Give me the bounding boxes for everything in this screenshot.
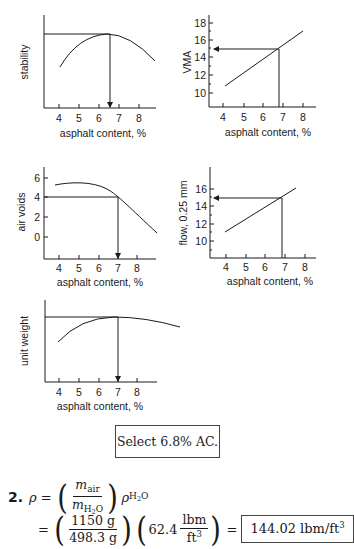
chart-flow bbox=[210, 167, 316, 258]
x-tick-label: 6 bbox=[262, 261, 268, 273]
x-tick-label: 6 bbox=[96, 112, 102, 124]
y-axis-label: unit weight bbox=[18, 316, 30, 366]
y-axis-label: VMA bbox=[181, 51, 193, 74]
selection-text: Select 6.8% AC. bbox=[117, 434, 218, 449]
y-ticks bbox=[210, 189, 214, 250]
x-tick-label: 7 bbox=[115, 262, 121, 274]
flow-line bbox=[225, 188, 296, 232]
selection-box: Select 6.8% AC. bbox=[115, 425, 220, 458]
y-tick-label: 0 bbox=[34, 231, 40, 243]
right-paren: ) bbox=[211, 512, 222, 546]
x-ticks bbox=[226, 254, 305, 258]
y-axis-label: air voids bbox=[15, 192, 27, 231]
x-axis-label: asphalt content, % bbox=[225, 126, 311, 138]
x-tick-label: 7 bbox=[282, 261, 288, 273]
x-tick-label: 7 bbox=[280, 111, 286, 123]
x-tick-label: 5 bbox=[241, 111, 247, 123]
y-ticks bbox=[209, 23, 213, 93]
y-tick-label: 2 bbox=[34, 211, 40, 223]
y-tick-label: 10 bbox=[195, 235, 207, 247]
x-tick-label: 4 bbox=[223, 261, 229, 273]
y-axis-label: flow, 0.25 mm bbox=[177, 180, 189, 245]
x-tick-label: 6 bbox=[96, 262, 102, 274]
y-tick-label: 14 bbox=[194, 51, 206, 63]
right-paren: ) bbox=[121, 512, 132, 546]
y-tick-label: 18 bbox=[194, 17, 206, 29]
y-tick-label: 12 bbox=[194, 69, 206, 81]
y-tick-label: 10 bbox=[194, 87, 206, 99]
x-tick-label: 7 bbox=[116, 112, 122, 124]
water-density-value: 62.4 bbox=[148, 522, 177, 537]
equals-sign: = bbox=[227, 522, 238, 537]
equals-sign: = bbox=[38, 522, 49, 537]
x-tick-label: 4 bbox=[56, 112, 62, 124]
y-tick-label: 16 bbox=[195, 183, 207, 195]
subscript-air: air bbox=[87, 484, 100, 494]
chart-air-voids bbox=[44, 167, 157, 259]
x-tick-label: 8 bbox=[134, 262, 140, 274]
denominator-mass: 498.3 g bbox=[67, 530, 119, 545]
y-axis-label: stability bbox=[18, 44, 30, 80]
unit-weight-curve bbox=[58, 317, 180, 342]
x-tick-label: 6 bbox=[96, 386, 102, 398]
y-tick-label: 14 bbox=[195, 200, 207, 212]
x-ticks bbox=[59, 378, 137, 382]
x-tick-label: 4 bbox=[220, 111, 226, 123]
equals-sign: = bbox=[41, 490, 52, 505]
mass-values-fraction: 1150 g 498.3 g bbox=[67, 514, 119, 545]
numerator-mass: 1150 g bbox=[69, 514, 117, 530]
y-tick-label: 12 bbox=[195, 218, 207, 230]
x-tick-label: 5 bbox=[76, 112, 82, 124]
m-symbol: m bbox=[75, 477, 87, 492]
right-paren: ) bbox=[107, 480, 118, 514]
chart-vma bbox=[209, 15, 316, 107]
x-axis-label: asphalt content, % bbox=[57, 400, 143, 412]
x-ticks bbox=[59, 255, 137, 259]
air-voids-curve bbox=[55, 183, 157, 233]
problem-number: 2. bbox=[8, 489, 23, 505]
x-ticks bbox=[223, 103, 303, 107]
x-tick-label: 6 bbox=[260, 111, 266, 123]
unit-exponent: 3 bbox=[196, 529, 201, 539]
y-tick-label: 4 bbox=[34, 191, 40, 203]
x-ticks bbox=[59, 104, 139, 108]
x-tick-label: 8 bbox=[134, 386, 140, 398]
x-axis-label: asphalt content, % bbox=[227, 275, 313, 287]
units-fraction: lbm ft3 bbox=[180, 513, 208, 545]
rho-symbol: ρ bbox=[29, 490, 37, 505]
left-paren: ( bbox=[54, 512, 65, 546]
chart-unit-weight bbox=[45, 300, 180, 382]
subscript-o: O bbox=[141, 491, 148, 501]
chart-stability bbox=[44, 15, 156, 108]
stability-curve bbox=[60, 34, 155, 67]
equation-line-2: = ( 1150 g 498.3 g ) ( 62.4 lbm ft3 ) = … bbox=[38, 512, 354, 546]
y-tick-label: 16 bbox=[194, 34, 206, 46]
unit-lbm: lbm bbox=[180, 513, 208, 529]
y-tick-label: 6 bbox=[34, 172, 40, 184]
figures: stability 4 5 6 7 8 asphalt content, % V… bbox=[0, 0, 334, 420]
left-paren: ( bbox=[137, 512, 148, 546]
m-symbol: m bbox=[72, 497, 84, 512]
x-tick-label: 5 bbox=[76, 386, 82, 398]
x-tick-label: 7 bbox=[115, 386, 121, 398]
x-tick-label: 4 bbox=[56, 262, 62, 274]
result-box: 144.02 lbm/ft3 bbox=[241, 515, 353, 543]
x-tick-label: 5 bbox=[243, 261, 249, 273]
vma-line bbox=[225, 31, 303, 86]
x-axis-label: asphalt content, % bbox=[60, 127, 146, 139]
y-ticks bbox=[44, 178, 48, 237]
x-axis-label: asphalt content, % bbox=[57, 276, 143, 288]
x-tick-label: 8 bbox=[302, 261, 308, 273]
mass-ratio-fraction: mair mH2O bbox=[70, 478, 105, 516]
rho-water-symbol: ρ bbox=[121, 490, 129, 505]
x-tick-label: 8 bbox=[136, 112, 142, 124]
subscript-h: H bbox=[129, 491, 137, 501]
x-tick-label: 5 bbox=[76, 262, 82, 274]
x-tick-label: 8 bbox=[300, 111, 306, 123]
result-value: 144.02 lbm/ft bbox=[250, 521, 339, 536]
x-tick-label: 4 bbox=[56, 386, 62, 398]
result-exponent: 3 bbox=[339, 520, 344, 530]
